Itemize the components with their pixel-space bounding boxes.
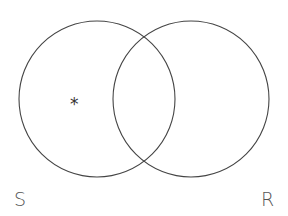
- label-s: S: [14, 188, 26, 210]
- circle-s: [19, 21, 175, 177]
- asterisk-marker: *: [70, 94, 79, 114]
- label-r: R: [261, 188, 274, 210]
- circle-r: [113, 21, 269, 177]
- venn-diagram: * S R: [0, 0, 288, 216]
